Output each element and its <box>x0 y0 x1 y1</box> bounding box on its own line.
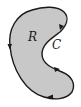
region-label: R <box>28 31 37 43</box>
region-diagram <box>0 0 81 107</box>
region-r-shape <box>10 7 74 99</box>
curve-label: C <box>52 39 61 51</box>
